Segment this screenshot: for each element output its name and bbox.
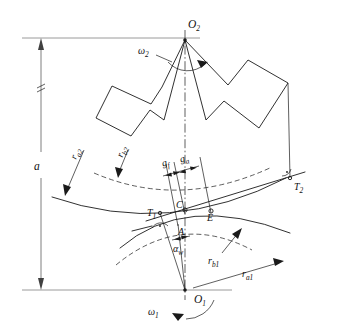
label-o1: O1 bbox=[194, 293, 206, 308]
omega2-leader bbox=[156, 55, 172, 62]
svg-text:ga: ga bbox=[178, 151, 190, 167]
label-ga: ga bbox=[178, 151, 190, 167]
dimension-arrow-bottom bbox=[38, 278, 44, 290]
label-ra1: ra1 bbox=[242, 268, 253, 282]
svg-text:ra2: ra2 bbox=[68, 146, 85, 162]
alphaw-arrow-left bbox=[174, 237, 181, 241]
gear2-addendum-arc bbox=[52, 178, 286, 214]
radius-line-o2-t2 bbox=[288, 83, 290, 178]
label-c-point: C bbox=[176, 199, 183, 210]
label-center-distance: a bbox=[34, 160, 40, 172]
gf-arrow-left bbox=[165, 172, 172, 176]
gear1-base-arc bbox=[116, 234, 252, 265]
arrow-ra1 bbox=[273, 258, 284, 266]
point-marker-o1 bbox=[183, 288, 187, 292]
gear2-tooth-right bbox=[185, 40, 288, 128]
arrow-rb1 bbox=[232, 228, 242, 239]
line-of-action bbox=[146, 172, 305, 221]
omega1-arrowhead bbox=[172, 313, 184, 321]
leader-ra1 bbox=[193, 263, 278, 288]
omega2-arrowhead bbox=[197, 60, 208, 68]
label-rb1: rb1 bbox=[208, 255, 219, 269]
label-rb2: rb2 bbox=[114, 144, 131, 160]
label-t1: T1 bbox=[147, 207, 156, 221]
gear1-addendum-arc bbox=[120, 216, 290, 248]
label-ra2: ra2 bbox=[68, 146, 85, 162]
arrow-rb2 bbox=[115, 167, 123, 178]
label-o2: O2 bbox=[188, 18, 200, 33]
svg-text:rb2: rb2 bbox=[114, 144, 131, 160]
label-omega1: ω1 bbox=[148, 306, 159, 320]
svg-text:gf: gf bbox=[160, 156, 171, 172]
dimension-arrow-top bbox=[38, 38, 44, 50]
label-gf: gf bbox=[160, 156, 171, 172]
label-e-point: E bbox=[206, 212, 213, 223]
gear-mesh-diagram: a gf ga αw bbox=[0, 0, 350, 329]
label-omega2: ω2 bbox=[138, 45, 149, 59]
label-t2: T2 bbox=[294, 181, 304, 195]
label-a-point: A bbox=[177, 226, 185, 237]
diagram-canvas: a gf ga αw bbox=[0, 0, 350, 329]
arrow-ra2 bbox=[63, 184, 71, 196]
point-marker-o2 bbox=[183, 38, 187, 42]
projector-e bbox=[200, 157, 211, 213]
label-alpha-w: αw bbox=[173, 243, 183, 257]
